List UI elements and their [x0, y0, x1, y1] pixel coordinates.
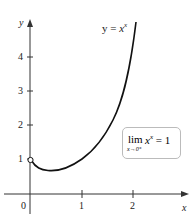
x-tick-label-0: 0 — [21, 201, 26, 211]
x-tick-label-2: 2 — [130, 201, 135, 211]
lim-expression: xx = 1 — [145, 133, 170, 146]
y-tick-label-4: 4 — [18, 52, 23, 62]
lim-word: lim — [128, 133, 143, 145]
y-axis-arrow-icon — [27, 19, 33, 27]
y-tick-label-1: 1 — [18, 154, 23, 164]
plot-area — [0, 0, 189, 221]
open-circle-marker — [28, 157, 33, 162]
y-tick-label-3: 3 — [18, 86, 23, 96]
lim-subscript: x→0⁺ — [127, 145, 142, 152]
x-axis-arrow-icon — [181, 191, 189, 197]
y-tick-label-2: 2 — [18, 120, 23, 130]
x-axis-label: x — [182, 203, 186, 213]
y-axis-label: y — [19, 18, 23, 28]
x-tick-label-1: 1 — [79, 201, 84, 211]
limit-annotation-box: lim x→0⁺ xx = 1 — [122, 127, 181, 159]
curve-x-to-the-x — [31, 22, 136, 171]
curve-label: y = xx — [102, 22, 127, 34]
